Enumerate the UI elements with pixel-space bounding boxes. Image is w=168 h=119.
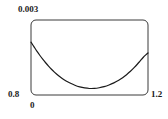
x-axis-min-label: 0	[30, 101, 35, 110]
plot-frame	[31, 20, 148, 95]
x-axis-max-label: 1.2	[151, 90, 162, 99]
plot-area	[0, 0, 168, 119]
y-axis-max-label: 0.003	[18, 5, 38, 14]
y-axis-min-label: 0.8	[8, 90, 19, 99]
chart-figure: 0.003 0.8 0 1.2	[0, 0, 168, 119]
